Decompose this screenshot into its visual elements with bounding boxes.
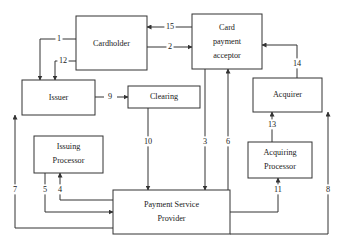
edge-label-3: 3: [203, 137, 207, 146]
node-payment-service-provider[interactable]: [113, 190, 230, 234]
edge-5-path: [45, 173, 113, 212]
edge-11-path: [230, 178, 278, 212]
node-payment-service-provider-line-1: Payment Service: [144, 200, 200, 209]
edge-label-1: 1: [57, 34, 61, 43]
node-acquiring-processor-line-1: Acquiring: [263, 148, 296, 157]
node-card-payment-acceptor-line-2: payment: [213, 37, 242, 46]
edge-4-path: [60, 173, 113, 200]
edge-label-10: 10: [144, 137, 152, 146]
node-clearing-label: Clearing: [150, 92, 178, 101]
edge-label-4: 4: [58, 185, 62, 194]
node-card-payment-acceptor-line-1: Card: [219, 23, 235, 32]
edge-label-14: 14: [293, 59, 301, 68]
node-issuing-processor-line-2: Processor: [53, 156, 85, 165]
edge-label-12: 12: [59, 56, 67, 65]
node-card-payment-acceptor-line-3: acceptor: [213, 51, 241, 60]
edge-label-7: 7: [13, 185, 17, 194]
flow-diagram: Cardholder Card payment acceptor Issuer …: [0, 0, 340, 246]
edge-label-2: 2: [168, 42, 172, 51]
node-cardholder-label: Cardholder: [93, 39, 130, 48]
edge-label-6: 6: [226, 137, 230, 146]
node-issuing-processor-line-1: Issuing: [57, 142, 81, 151]
node-payment-service-provider-line-2: Provider: [157, 214, 185, 223]
edge-label-8: 8: [326, 185, 330, 194]
edge-label-15: 15: [166, 22, 174, 31]
node-acquirer-label: Acquirer: [273, 90, 302, 99]
edge-label-11: 11: [274, 185, 282, 194]
node-issuer-label: Issuer: [49, 93, 69, 102]
edge-label-5: 5: [43, 185, 47, 194]
edge-label-13: 13: [268, 120, 276, 129]
node-acquiring-processor-line-2: Processor: [264, 162, 296, 171]
diagram-canvas: Cardholder Card payment acceptor Issuer …: [0, 0, 340, 246]
edge-label-9: 9: [108, 92, 112, 101]
